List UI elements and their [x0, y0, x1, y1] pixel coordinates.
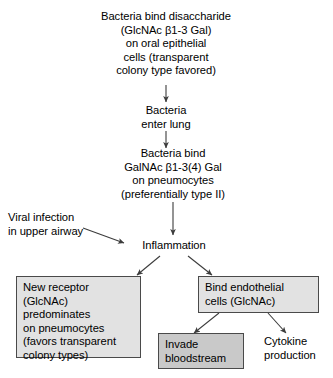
node-bacteria-bind-galnac: Bacteria bind GalNAc β1-3(4) Gal on pneu…	[93, 147, 253, 201]
node-inflammation: Inflammation	[126, 239, 222, 253]
arrow-inflammation-to-bind-endothelial	[188, 256, 212, 275]
node-bacteria-enter-lung: Bacteria enter lung	[96, 104, 236, 131]
node-viral-infection: Viral infection in upper airway	[8, 211, 120, 238]
arrow-endothelial-to-cytokine	[268, 313, 286, 333]
arrow-inflammation-to-new-receptor	[137, 256, 160, 275]
node-bind-endothelial-cells: Bind endothelial cells (GlcNAc)	[198, 276, 319, 313]
node-bacteria-bind-disaccharide: Bacteria bind disaccharide (GlcNAc β1-3 …	[56, 10, 276, 78]
node-invade-bloodstream: Invade bloodstream	[158, 333, 244, 369]
flow-diagram-canvas: Bacteria bind disaccharide (GlcNAc β1-3 …	[0, 0, 333, 378]
node-cytokine-production: Cytokine production	[264, 335, 333, 362]
node-new-receptor: New receptor (GlcNAc) predominates on pn…	[16, 276, 141, 358]
arrow-endothelial-to-invade	[194, 313, 219, 333]
